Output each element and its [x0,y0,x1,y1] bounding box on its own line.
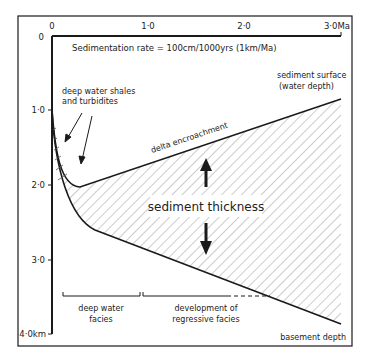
x-tick-label: 0 [49,21,54,31]
deep-water-facies-bracket [63,292,140,296]
deep-water-shales-label: deep water shales [62,87,135,96]
deep-water-facies-label: facies [89,315,112,324]
sediment-thickness-label: sediment thickness [148,200,264,214]
y-tick-label: 3·0 [31,255,45,265]
sedimentation-diagram: 0 1·0 2·0 3·0Ma 0 1·0 2·0 3·0 4·0km Sedi… [0,0,369,360]
sedimentation-rate-title: Sedimentation rate = 100cm/1000yrs (1km/… [72,43,277,53]
regressive-facies-label: regressive facies [172,315,239,324]
regressive-facies-label: development of [174,304,237,313]
y-tick-label: 0 [39,32,44,42]
sediment-surface-label: sediment surface [277,71,347,80]
y-tick-label: 1·0 [31,105,45,115]
water-depth-label: (water depth) [279,82,334,91]
pointer-arrows [65,113,92,164]
x-tick-label: 1·0 [141,21,155,31]
y-tick-label: 4·0km [19,329,46,339]
y-tick-label: 2·0 [31,180,45,190]
x-tick-label: 3·0Ma [324,21,350,31]
deep-water-shales-label: and turbidites [62,97,118,106]
regressive-facies-bracket [143,292,270,296]
basement-depth-label: basement depth [280,333,346,342]
x-tick-label: 2·0 [237,21,251,31]
deep-water-facies-label: deep water [78,304,124,313]
